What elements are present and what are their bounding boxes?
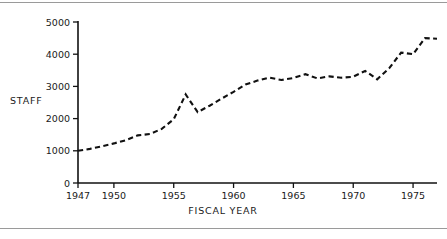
x-axis-title: FISCAL YEAR bbox=[188, 205, 257, 216]
staff-fiscal-year-line-chart: 010002000300040005000 194719501955196019… bbox=[0, 0, 447, 239]
y-axis-tick-labels: 010002000300040005000 bbox=[46, 17, 70, 189]
chart-svg: 010002000300040005000 194719501955196019… bbox=[0, 0, 447, 239]
y-axis-title: STAFF bbox=[10, 95, 43, 106]
x-tick-label: 1965 bbox=[281, 190, 305, 201]
x-tick-label: 1950 bbox=[102, 190, 126, 201]
y-tick-label: 3000 bbox=[46, 81, 70, 92]
x-tick-label: 1960 bbox=[221, 190, 245, 201]
y-tick-label: 0 bbox=[64, 178, 70, 189]
x-tick-label: 1955 bbox=[162, 190, 186, 201]
y-tick-label: 5000 bbox=[46, 17, 70, 28]
y-tick-label: 4000 bbox=[46, 49, 70, 60]
staff-data-series-line bbox=[78, 38, 437, 151]
y-tick-label: 2000 bbox=[46, 113, 70, 124]
y-tick-label: 1000 bbox=[46, 145, 70, 156]
x-tick-label: 1975 bbox=[401, 190, 425, 201]
x-tick-label: 1947 bbox=[66, 190, 90, 201]
x-tick-label: 1970 bbox=[341, 190, 365, 201]
x-axis-tick-labels: 1947195019551960196519701975 bbox=[66, 190, 425, 201]
